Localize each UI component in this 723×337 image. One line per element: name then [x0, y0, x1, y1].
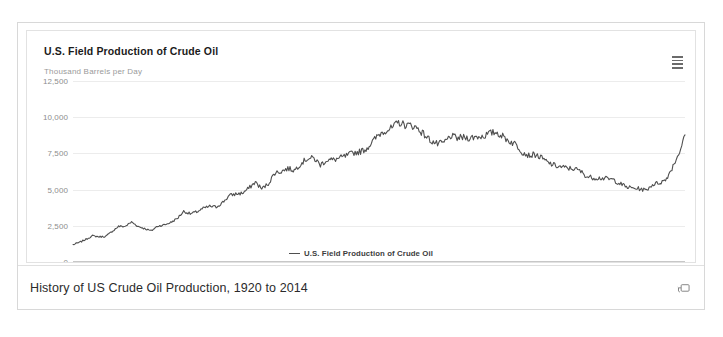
hamburger-line — [672, 56, 683, 58]
y-axis-tick-label: 10,000 — [43, 113, 68, 122]
legend-item-label: U.S. Field Production of Crude Oil — [304, 249, 433, 258]
hamburger-line — [672, 63, 683, 65]
y-axis-tick-label: 0 — [63, 258, 68, 264]
chart-legend: U.S. Field Production of Crude Oil — [27, 249, 695, 258]
chart-title: U.S. Field Production of Crude Oil — [44, 45, 218, 57]
chart-container: U.S. Field Production of Crude Oil Thous… — [26, 30, 696, 263]
chart-caption: History of US Crude Oil Production, 1920… — [30, 281, 308, 295]
series-line-chart — [73, 81, 685, 262]
card-footer: History of US Crude Oil Production, 1920… — [18, 265, 704, 309]
y-axis-tick-label: 12,500 — [43, 77, 68, 86]
legend-item-crude-oil[interactable]: U.S. Field Production of Crude Oil — [289, 249, 433, 258]
hamburger-line — [672, 67, 683, 69]
chart-card: U.S. Field Production of Crude Oil Thous… — [17, 22, 705, 310]
y-axis-tick-label: 2,500 — [47, 221, 68, 230]
y-axis-tick-label: 5,000 — [47, 185, 68, 194]
series-path-crude-oil — [73, 121, 685, 245]
popout-window-icon[interactable] — [677, 281, 690, 294]
hamburger-menu-icon[interactable] — [672, 56, 683, 67]
y-axis-title: Thousand Barrels per Day — [44, 67, 142, 76]
y-axis-tick-label: 7,500 — [47, 149, 68, 158]
plot-area: 02,5005,0007,50010,00012,500 19201930194… — [73, 81, 685, 262]
line-dash-marker-icon — [289, 253, 300, 255]
hamburger-line — [672, 60, 683, 62]
